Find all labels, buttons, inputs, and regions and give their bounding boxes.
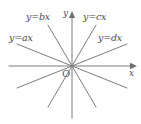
coordinate-figure: y=bx y=ax y=cx y=dx x y O — [0, 0, 141, 124]
y-axis-label: y — [63, 9, 68, 18]
label-y-equals-bx: y=bx — [26, 12, 50, 22]
label-y-equals-cx: y=cx — [83, 12, 106, 22]
origin-label: O — [62, 69, 70, 79]
y-axis-arrowhead — [69, 11, 75, 18]
x-axis-label: x — [129, 69, 134, 78]
label-y-equals-dx: y=dx — [98, 33, 122, 43]
plot-svg — [0, 0, 141, 124]
label-y-equals-ax: y=ax — [9, 33, 33, 43]
